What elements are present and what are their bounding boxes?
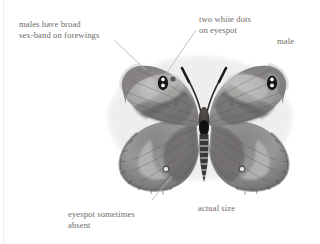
figure-canvas: males have broad sex-band on forewings t… [0, 0, 320, 244]
label-actual-size: actual size [198, 203, 235, 214]
eyespot-white-dot-lower-right [270, 84, 274, 88]
hindwing-white-dot-right [240, 167, 244, 171]
forewing-eyespot-left [156, 74, 171, 93]
eyespot-white-dot-lower-left [161, 84, 165, 88]
label-sex-band: males have broad sex-band on forewings [19, 19, 99, 41]
leader-sex-band [115, 41, 146, 70]
label-eyespot-absent: eyespot sometimes absent [68, 209, 135, 231]
eyespot-white-dot-upper-left [161, 78, 165, 82]
hindwing-white-dot-left [164, 167, 168, 171]
thorax [199, 107, 210, 136]
forewing-eyespot-right [265, 74, 280, 93]
label-sex: male [277, 36, 294, 47]
eyespot-white-dot-upper-right [270, 78, 274, 82]
label-white-dots: two white dots on eyespot [199, 14, 251, 36]
